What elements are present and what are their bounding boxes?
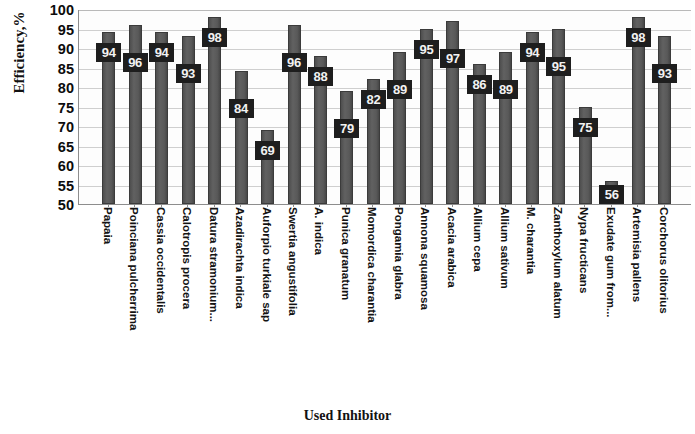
x-tick: Annona squamosa — [418, 207, 432, 397]
x-tick-label: Zanthoxylum alatum — [552, 207, 564, 319]
x-tick-label: Calotropis procera — [181, 207, 193, 309]
bar-value-label: 94 — [149, 43, 174, 62]
bar — [288, 25, 301, 204]
bar-value-label: 97 — [440, 49, 465, 68]
x-tick: Nypa fructicans — [577, 207, 591, 397]
bar — [235, 71, 248, 204]
x-tick-label: Acacia arabica — [446, 207, 458, 288]
x-tick: Punica granatum — [339, 207, 353, 397]
bar-value-label: 75 — [573, 118, 598, 137]
x-tick-label: Azadirachta indica — [234, 207, 246, 309]
x-tick: Papaia — [101, 207, 115, 397]
x-tick: Calotropis procera — [180, 207, 194, 397]
bar-value-label: 94 — [520, 43, 545, 62]
bar — [499, 52, 512, 204]
y-tick-label: 60 — [34, 159, 74, 174]
x-tick-label: Corchorus olitorius — [658, 207, 670, 314]
x-tick-label: Pongamia glabra — [393, 207, 405, 300]
bar-value-label: 93 — [176, 64, 201, 83]
x-tick: Pongamia glabra — [392, 207, 406, 397]
x-axis-tick-labels: PapaiaPoinciana pulcherrimaCassia occide… — [78, 207, 691, 407]
bar-value-label: 95 — [546, 57, 571, 76]
plot-area: 9496949398846996887982899597868994957556… — [78, 10, 691, 205]
y-tick-label: 80 — [34, 81, 74, 96]
x-tick-label: Momordica charantia — [366, 207, 378, 323]
x-tick: Allium cepa — [471, 207, 485, 397]
x-tick-label: Swertia angustifolia — [287, 207, 299, 316]
bar-value-label: 79 — [334, 119, 359, 138]
x-tick: A. indica — [312, 207, 326, 397]
bar-series: 9496949398846996887982899597868994957556… — [79, 10, 691, 204]
x-tick: Acacia arabica — [445, 207, 459, 397]
x-tick-label: Annona squamosa — [419, 207, 431, 310]
y-tick-label: 50 — [34, 198, 74, 213]
x-tick: Artemisia pallens — [630, 207, 644, 397]
bar-value-label: 89 — [387, 80, 412, 99]
x-tick-label: Datura stramonium... — [208, 207, 220, 322]
x-axis-title: Used Inhibitor — [0, 408, 695, 424]
bar-value-label: 82 — [361, 90, 386, 109]
x-tick: Auforpio turkiale sap — [260, 207, 274, 397]
x-tick-label: Allium cepa — [472, 207, 484, 272]
y-tick-label: 100 — [34, 3, 74, 18]
x-tick: Momordica charantia — [365, 207, 379, 397]
bar-value-label: 69 — [255, 141, 280, 160]
x-tick-label: Nypa fructicans — [578, 207, 590, 293]
x-tick-label: Cassia occidentalis — [155, 207, 167, 314]
y-tick-label: 65 — [34, 140, 74, 155]
bar — [658, 36, 671, 204]
bar-value-label: 98 — [626, 28, 651, 47]
x-tick: Cassia occidentalis — [154, 207, 168, 397]
bar — [393, 52, 406, 204]
bar — [129, 25, 142, 204]
x-tick-label: Artemisia pallens — [631, 207, 643, 302]
bar-value-label: 96 — [123, 53, 148, 72]
x-tick: Corchorus olitorius — [657, 207, 671, 397]
bar-value-label: 89 — [493, 80, 518, 99]
x-tick: Zanthoxylum alatum — [551, 207, 565, 397]
x-tick: Poinciana pulcherrima — [127, 207, 141, 397]
bar-chart: Efficiency,% 10095908580757065605550 949… — [0, 0, 695, 434]
y-tick-label: 90 — [34, 42, 74, 57]
y-tick-label: 85 — [34, 62, 74, 77]
y-axis-tick-labels: 10095908580757065605550 — [34, 0, 74, 215]
bar-value-label: 56 — [599, 185, 624, 204]
y-axis-title: Efficiency,% — [11, 0, 28, 108]
x-tick-label: Exudate gum from... — [605, 207, 617, 318]
bar-value-label: 93 — [652, 64, 677, 83]
y-tick-label: 75 — [34, 101, 74, 116]
bar-value-label: 94 — [96, 43, 121, 62]
y-tick-label: 55 — [34, 179, 74, 194]
x-tick-label: Allium sativum — [499, 207, 511, 289]
x-tick: Allium sativum — [498, 207, 512, 397]
y-tick-label: 70 — [34, 120, 74, 135]
x-tick-label: Poinciana pulcherrima — [128, 207, 140, 330]
x-tick-label: Papaia — [102, 207, 114, 244]
x-tick: Exudate gum from... — [604, 207, 618, 397]
x-tick: Swertia angustifolia — [286, 207, 300, 397]
bar-value-label: 96 — [282, 53, 307, 72]
x-tick: Datura stramonium... — [207, 207, 221, 397]
x-tick-label: Auforpio turkiale sap — [261, 207, 273, 322]
bar-value-label: 95 — [414, 40, 439, 59]
x-tick: Azadirachta indica — [233, 207, 247, 397]
bar-value-label: 84 — [229, 99, 254, 118]
x-tick-label: A. indica — [313, 207, 325, 255]
bar-value-label: 86 — [467, 75, 492, 94]
x-tick-label: M. charantia — [525, 207, 537, 274]
bar — [340, 91, 353, 204]
bar — [182, 36, 195, 204]
x-tick-label: Punica granatum — [340, 207, 352, 300]
bar — [552, 29, 565, 205]
bar-value-label: 98 — [202, 28, 227, 47]
bar-value-label: 88 — [308, 67, 333, 86]
x-tick: M. charantia — [524, 207, 538, 397]
y-tick-label: 95 — [34, 23, 74, 38]
